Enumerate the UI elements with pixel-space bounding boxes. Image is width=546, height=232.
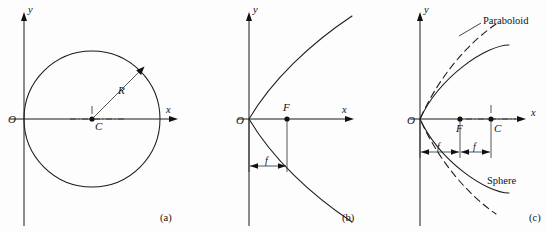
panel-c-caption: (c) <box>529 212 541 224</box>
panel-c: y x O F C <box>407 4 541 226</box>
panel-b-focus-label: F <box>282 101 290 113</box>
panel-c-center-label: C <box>494 122 502 134</box>
panel-c-paraboloid-leader <box>459 23 481 36</box>
panel-b-dimension-arrowhead-right <box>278 163 286 169</box>
panel-c-sphere-label: Sphere <box>487 175 516 186</box>
panel-c-origin-label: O <box>407 114 415 126</box>
panel-c-x-axis-label: x <box>530 107 536 118</box>
panel-a-origin-label: O <box>8 113 16 125</box>
panel-b-x-axis-label: x <box>341 104 347 115</box>
panel-a: y x O C R (a) <box>8 4 178 226</box>
panel-a-caption: (a) <box>160 212 172 224</box>
panel-b-dimension-arrowhead-left <box>250 163 258 169</box>
panel-a-center-label: C <box>95 120 103 132</box>
panel-a-x-axis-label: x <box>165 104 171 115</box>
panel-b-caption: (b) <box>342 212 355 224</box>
panel-b-y-axis-arrowhead <box>246 12 252 21</box>
panel-b-origin-label: O <box>236 114 244 126</box>
panel-c-dimension-arrowhead-2-right <box>482 149 490 155</box>
panel-a-x-axis-arrowhead <box>169 116 178 122</box>
panel-c-paraboloid-label: Paraboloid <box>483 15 529 26</box>
panel-c-focal-length-label-2: f <box>473 141 477 152</box>
panel-c-dimension-arrowhead-1-left <box>421 149 429 155</box>
panel-b: y x O F f (b) <box>236 4 355 226</box>
panel-b-focal-length-label: f <box>265 155 269 166</box>
panel-c-center-point <box>488 116 493 121</box>
panel-a-radius-line <box>92 71 140 119</box>
panel-c-x-axis-arrowhead <box>517 116 526 122</box>
panel-c-focus-point <box>457 116 462 121</box>
panel-a-y-axis-label: y <box>27 4 33 15</box>
figure-canvas: y x O C R (a) y <box>0 0 546 232</box>
panel-c-y-axis-arrowhead <box>417 12 423 21</box>
panel-a-y-axis-arrowhead <box>21 12 27 21</box>
panel-a-radius-label: R <box>117 84 125 96</box>
panel-c-focus-label: F <box>455 122 463 134</box>
panel-b-x-axis-arrowhead <box>345 116 354 122</box>
optics-figure: y x O C R (a) y <box>0 0 546 232</box>
panel-c-dimension-arrowhead-2-left <box>461 149 469 155</box>
panel-b-focus-point <box>284 116 289 121</box>
panel-b-y-axis-label: y <box>252 4 258 15</box>
panel-c-dimension-arrowhead-1-right <box>451 149 459 155</box>
panel-c-y-axis-label: y <box>423 4 429 15</box>
